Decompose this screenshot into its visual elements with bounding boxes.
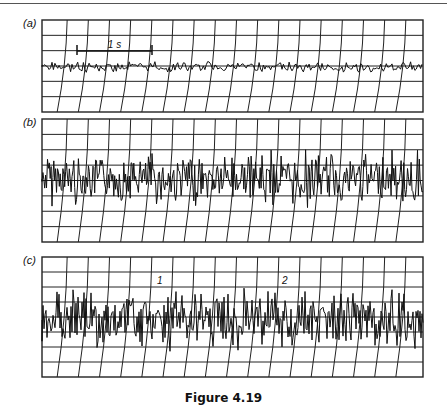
eeg-traces-figure: 1 s12 [0, 0, 447, 412]
trace-annotation-2: 2 [281, 275, 288, 286]
eeg-trace-a [42, 62, 422, 73]
panel-a: 1 s [42, 20, 423, 112]
eeg-trace-b [42, 150, 423, 208]
figure-caption: Figure 4.19 [0, 391, 447, 405]
eeg-trace-c [42, 288, 423, 351]
panel-c: 12 [42, 257, 423, 377]
panel-b [42, 119, 423, 242]
scale-bar-label: 1 s [108, 39, 121, 50]
trace-annotation-1: 1 [157, 275, 163, 286]
